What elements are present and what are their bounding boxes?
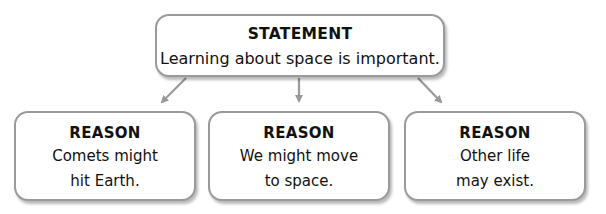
reason-title: REASON [16, 122, 194, 144]
reason-text-line-2: to space. [210, 169, 388, 194]
reason-text-line-2: hit Earth. [16, 169, 194, 194]
reason-text-line-2: may exist. [406, 169, 584, 194]
arrow-to-reason-3 [418, 78, 441, 102]
reason-text-line-1: Comets might [16, 144, 194, 169]
reason-box-2: REASON We might move to space. [208, 111, 390, 201]
statement-title: STATEMENT [157, 22, 443, 46]
reason-box-3: REASON Other life may exist. [404, 111, 586, 201]
reason-title: REASON [210, 122, 388, 144]
statement-text: Learning about space is important. [157, 46, 443, 72]
reason-text-line-1: Other life [406, 144, 584, 169]
reason-title: REASON [406, 122, 584, 144]
reason-text-line-1: We might move [210, 144, 388, 169]
statement-box: STATEMENT Learning about space is import… [155, 14, 445, 77]
reason-box-1: REASON Comets might hit Earth. [14, 111, 196, 201]
arrow-to-reason-1 [162, 78, 186, 102]
